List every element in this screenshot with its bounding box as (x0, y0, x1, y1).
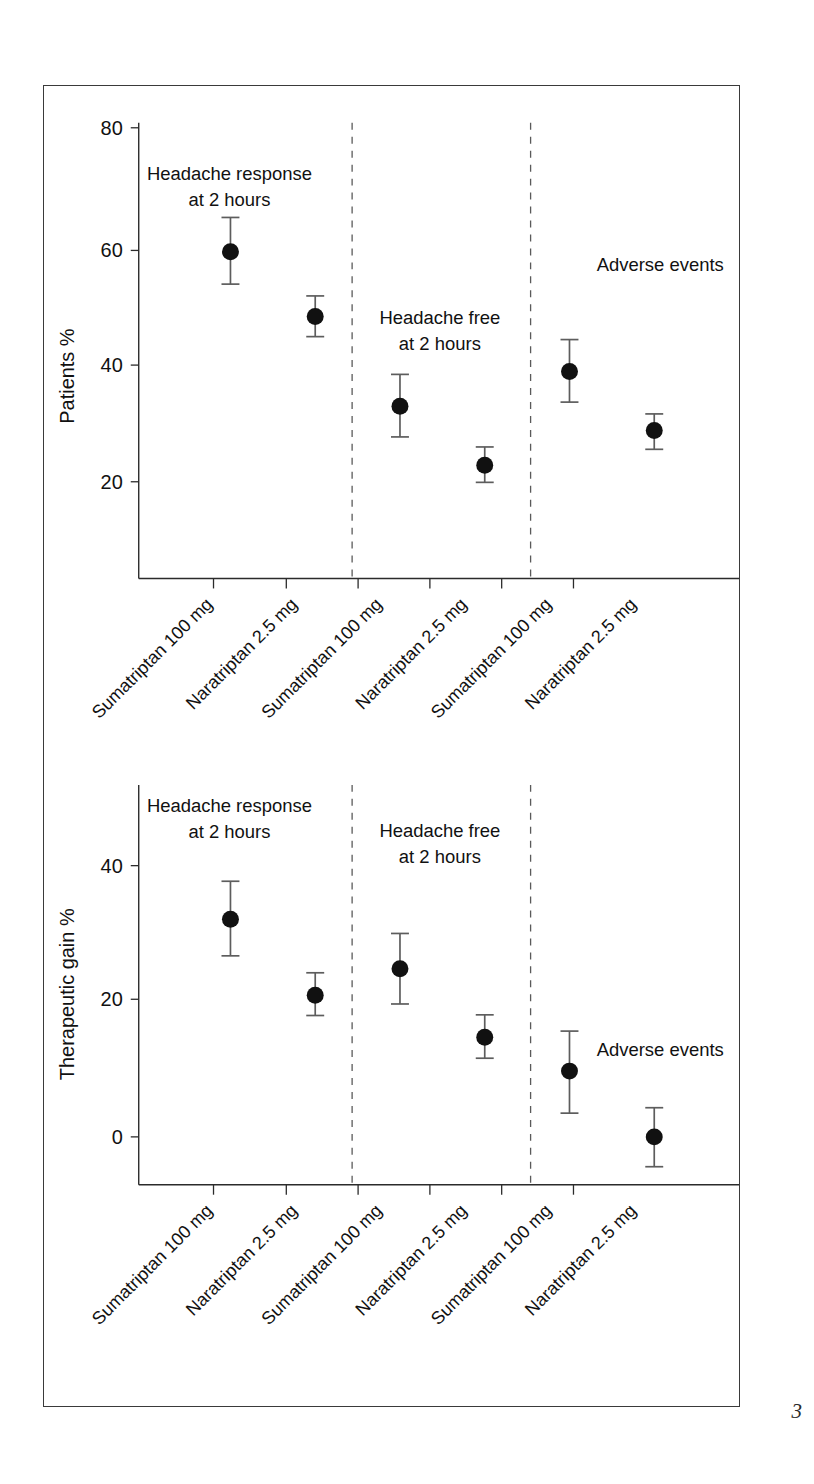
annotation-line-1: Headache free (379, 820, 500, 841)
y-tick-label-bottom-1: 20 (101, 988, 123, 1010)
data-point (561, 1063, 578, 1080)
annotation-line-1: Adverse events (597, 1039, 724, 1060)
data-point (476, 1029, 493, 1046)
y-tick-label-bottom-2: 40 (101, 855, 123, 877)
annotation-line-1: Headache response (147, 795, 312, 816)
annotation-line-2: at 2 hours (188, 821, 270, 842)
data-point (307, 987, 324, 1004)
data-point (222, 911, 239, 928)
annotation-bottom-headache-response: Headache response at 2 hours (147, 795, 312, 842)
y-axis-title-bottom: Therapeutic gain % (56, 908, 78, 1080)
y-ticks-bottom (131, 866, 139, 1137)
page-number: 3 (792, 1399, 803, 1424)
annotation-bottom-adverse-events: Adverse events (597, 1039, 724, 1060)
x-ticks-bottom (214, 1185, 574, 1195)
chart-therapeutic-gain-percent: 40 20 0 Therapeutic gain % Headache resp… (44, 86, 739, 1406)
y-tick-label-bottom-0: 0 (112, 1126, 123, 1148)
annotation-bottom-headache-free: Headache free at 2 hours (379, 820, 500, 867)
data-point (392, 960, 409, 977)
data-point (646, 1128, 663, 1145)
data-points-bottom (221, 881, 663, 1166)
x-category-labels-bottom: Sumatriptan 100 mgNaratriptan 2.5 mgSuma… (88, 1200, 640, 1328)
figure-frame: 80 60 40 20 Patients % Headache response… (43, 85, 740, 1407)
annotation-line-2: at 2 hours (399, 846, 481, 867)
